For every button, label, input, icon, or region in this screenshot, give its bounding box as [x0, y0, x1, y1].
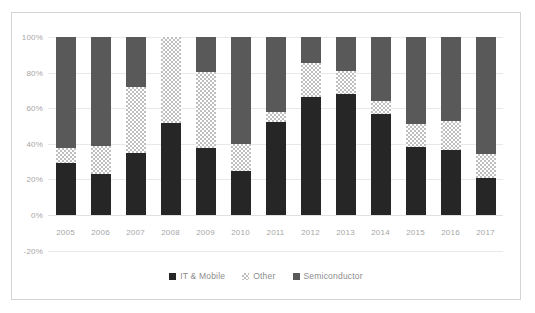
bar-column[interactable]: [371, 37, 391, 215]
bar-segment-other[interactable]: [266, 112, 286, 122]
plot-area: 100%80%60%40%20%0%-20%: [48, 37, 503, 222]
bar-segment-it-mobile[interactable]: [161, 123, 181, 215]
bar-segment-other[interactable]: [441, 121, 461, 150]
bar-segment-it-mobile[interactable]: [91, 174, 111, 215]
chart-frame: 100%80%60%40%20%0%-20% 20052006200720082…: [11, 12, 521, 300]
x-axis-tick-label: 2009: [196, 228, 215, 237]
bar-column[interactable]: [91, 37, 111, 215]
bar-column[interactable]: [266, 37, 286, 215]
bar-segment-it-mobile[interactable]: [301, 97, 321, 215]
legend-label: Other: [253, 271, 275, 281]
bar-segment-it-mobile[interactable]: [56, 163, 76, 215]
x-axis-tick-label: 2006: [91, 228, 110, 237]
bar-segment-semiconductor[interactable]: [406, 37, 426, 124]
bar-column[interactable]: [476, 37, 496, 215]
x-axis-tick-label: 2010: [231, 228, 250, 237]
x-axis-tick-label: 2016: [441, 228, 460, 237]
bar-segment-other[interactable]: [476, 154, 496, 178]
x-axis-tick-label: 2017: [476, 228, 495, 237]
bar-segment-semiconductor[interactable]: [301, 37, 321, 63]
gridline--20: -20%: [48, 251, 503, 252]
x-axis-tick-label: 2005: [56, 228, 75, 237]
x-axis-tick-label: 2014: [371, 228, 390, 237]
bar-segment-semiconductor[interactable]: [196, 37, 216, 72]
bar-segment-other[interactable]: [56, 148, 76, 163]
y-axis-tick-label: 100%: [22, 33, 43, 42]
bar-segment-it-mobile[interactable]: [336, 94, 356, 215]
bar-column[interactable]: [126, 37, 146, 215]
bar-segment-other[interactable]: [406, 124, 426, 147]
bar-segment-semiconductor[interactable]: [231, 37, 251, 144]
bar-column[interactable]: [231, 37, 251, 215]
bar-column[interactable]: [441, 37, 461, 215]
bar-segment-it-mobile[interactable]: [196, 148, 216, 215]
bar-segment-other[interactable]: [301, 63, 321, 97]
legend-item[interactable]: IT & Mobile: [169, 271, 225, 281]
y-axis-tick-label: 20%: [26, 175, 43, 184]
bar-segment-other[interactable]: [91, 146, 111, 174]
bar-segment-it-mobile[interactable]: [371, 114, 391, 215]
bar-segment-semiconductor[interactable]: [371, 37, 391, 101]
x-axis-labels: 2005200620072008200920102011201220132014…: [48, 228, 503, 244]
bar-column[interactable]: [301, 37, 321, 215]
bar-segment-semiconductor[interactable]: [476, 37, 496, 154]
bar-segment-semiconductor[interactable]: [91, 37, 111, 146]
legend-item[interactable]: Semiconductor: [293, 271, 363, 281]
x-axis-tick-label: 2012: [301, 228, 320, 237]
legend-label: Semiconductor: [304, 271, 363, 281]
x-axis-tick-label: 2015: [406, 228, 425, 237]
bar-segment-it-mobile[interactable]: [406, 147, 426, 215]
y-axis-tick-label: 60%: [26, 104, 43, 113]
x-axis-tick-label: 2008: [161, 228, 180, 237]
legend-swatch-other-icon: [242, 273, 249, 280]
bar-segment-it-mobile[interactable]: [476, 178, 496, 215]
bar-segment-it-mobile[interactable]: [266, 122, 286, 215]
bar-segment-semiconductor[interactable]: [56, 37, 76, 148]
x-axis-tick-label: 2011: [266, 228, 284, 237]
bar-segment-it-mobile[interactable]: [126, 153, 146, 215]
bar-column[interactable]: [161, 37, 181, 215]
y-axis-tick-label: 0%: [31, 211, 43, 220]
bar-segment-other[interactable]: [336, 71, 356, 94]
bar-segment-other[interactable]: [371, 101, 391, 113]
bar-segment-other[interactable]: [161, 37, 181, 123]
chart-title-clipped: [12, 12, 520, 20]
y-axis-tick-label: 80%: [26, 68, 43, 77]
bar-column[interactable]: [406, 37, 426, 215]
bar-segment-it-mobile[interactable]: [441, 150, 461, 215]
chart-legend: IT & MobileOtherSemiconductor: [12, 271, 520, 281]
bar-column[interactable]: [336, 37, 356, 215]
legend-swatch-it-mobile-icon: [169, 273, 176, 280]
bar-segment-other[interactable]: [196, 72, 216, 149]
bar-series-group: [48, 37, 503, 215]
bar-column[interactable]: [56, 37, 76, 215]
bar-segment-semiconductor[interactable]: [441, 37, 461, 121]
legend-item[interactable]: Other: [242, 271, 275, 281]
bar-segment-semiconductor[interactable]: [266, 37, 286, 112]
bar-segment-semiconductor[interactable]: [336, 37, 356, 71]
x-axis-tick-label: 2007: [126, 228, 145, 237]
bar-segment-other[interactable]: [126, 87, 146, 153]
gridline-0: 0%: [48, 215, 503, 216]
x-axis-tick-label: 2013: [336, 228, 355, 237]
legend-swatch-semiconductor-icon: [293, 273, 300, 280]
legend-label: IT & Mobile: [180, 271, 225, 281]
bar-segment-semiconductor[interactable]: [126, 37, 146, 87]
bar-segment-other[interactable]: [231, 144, 251, 171]
y-axis-tick-label: 40%: [26, 139, 43, 148]
bar-column[interactable]: [196, 37, 216, 215]
bar-segment-it-mobile[interactable]: [231, 171, 251, 216]
y-axis-tick-label: -20%: [24, 246, 43, 255]
